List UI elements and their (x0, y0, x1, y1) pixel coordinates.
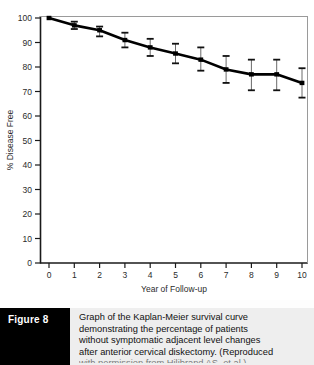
data-point-marker (300, 81, 305, 85)
x-tick-label: 2 (97, 270, 102, 280)
data-point-marker (274, 72, 279, 76)
y-tick-label: 0 (27, 258, 32, 268)
x-tick-label: 10 (297, 270, 307, 280)
data-point-marker (198, 57, 203, 61)
y-tick-label: 60 (23, 111, 33, 121)
chart-svg: 0102030405060708090100 012345678910 Year… (0, 0, 314, 300)
x-tick-label: 1 (72, 270, 77, 280)
figure-number-tag: Figure 8 (0, 308, 70, 365)
y-tick-label: 90 (23, 38, 33, 48)
caption-line: demonstrating the percentage of patients (79, 324, 310, 336)
caption-line: after anterior cervical diskectomy. (Rep… (79, 347, 310, 359)
y-tick-label: 100 (18, 13, 32, 23)
figure-caption-text: Graph of the Kaplan-Meier survival curve… (70, 308, 314, 365)
figure-caption-block: Figure 8 Graph of the Kaplan-Meier survi… (0, 308, 314, 365)
y-axis-title: % Disease Free (5, 109, 15, 170)
data-point-marker (47, 16, 52, 20)
x-tick-label: 3 (123, 270, 128, 280)
data-point-marker (97, 28, 102, 32)
x-tick-label: 6 (198, 270, 203, 280)
x-tick-label: 5 (173, 270, 178, 280)
x-tick-label: 9 (274, 270, 279, 280)
data-point-marker (249, 72, 254, 76)
figure-panel: 0102030405060708090100 012345678910 Year… (0, 0, 314, 365)
y-tick-label: 20 (23, 209, 33, 219)
data-point-marker (72, 23, 77, 27)
y-tick-label: 40 (23, 160, 33, 170)
y-tick-label: 70 (23, 87, 33, 97)
y-tick-label: 30 (23, 185, 33, 195)
data-point-marker (173, 51, 178, 55)
x-tick-label: 8 (249, 270, 254, 280)
kaplan-meier-chart: 0102030405060708090100 012345678910 Year… (0, 0, 314, 300)
x-tick-label: 4 (148, 270, 153, 280)
data-point-marker (148, 45, 153, 49)
caption-line: with permission from Hilibrand AS, et al… (79, 358, 310, 363)
data-point-marker (224, 67, 229, 71)
x-tick-label: 0 (47, 270, 52, 280)
x-axis-title: Year of Follow-up (141, 284, 207, 294)
x-tick-label: 7 (224, 270, 229, 280)
y-tick-label: 10 (23, 234, 33, 244)
caption-line: Graph of the Kaplan-Meier survival curve (79, 312, 310, 324)
y-tick-label: 80 (23, 62, 33, 72)
data-point-marker (123, 38, 128, 42)
caption-line: without symptomatic adjacent level chang… (79, 335, 310, 347)
y-tick-label: 50 (23, 136, 33, 146)
chart-background (0, 0, 314, 300)
